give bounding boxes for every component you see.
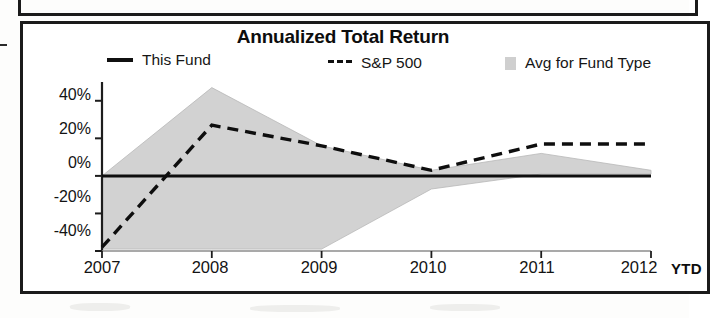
x-tick-label: 2007: [67, 258, 137, 277]
y-tick-label: 20%: [29, 120, 91, 138]
avg-fund-type-band: [102, 88, 651, 250]
scan-smudge: [430, 304, 500, 311]
x-axis-ytd-label: YTD: [671, 260, 702, 277]
scan-smudge: [250, 305, 340, 312]
plot-area: 40% 20% 0% -20% -40% 2007 2008 2009 2010…: [23, 24, 713, 297]
margin-tick-mark: [0, 44, 7, 46]
chart-panel: Annualized Total Return This Fund S&P 50…: [20, 21, 710, 294]
scan-smudge: [70, 303, 130, 311]
x-axis-ticks: [102, 251, 651, 258]
x-tick-label: 2012: [604, 258, 674, 277]
x-tick-label: 2010: [393, 258, 463, 277]
upper-panel-edge: [18, 0, 698, 16]
y-tick-label: 0%: [29, 154, 91, 172]
y-tick-label: -40%: [29, 222, 91, 240]
x-tick-label: 2008: [175, 258, 245, 277]
x-tick-label: 2009: [284, 258, 354, 277]
y-tick-label: -20%: [29, 188, 91, 206]
chart-plot-svg: [23, 24, 713, 297]
y-tick-label: 40%: [29, 86, 91, 104]
x-tick-label: 2011: [502, 258, 572, 277]
